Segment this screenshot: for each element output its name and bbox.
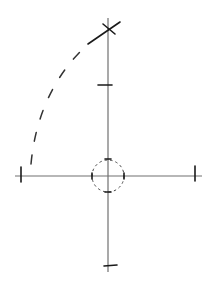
bottom-end-tick (104, 265, 117, 266)
diagram-canvas (0, 0, 213, 288)
background (0, 0, 213, 288)
